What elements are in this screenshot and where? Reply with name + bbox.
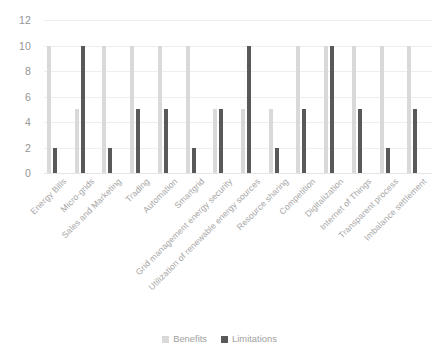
bar-benefits	[186, 46, 190, 174]
bar-limitations	[358, 109, 362, 173]
bar-limitations	[81, 46, 85, 174]
bar-benefits	[158, 46, 162, 174]
bar-group	[72, 20, 100, 173]
bar-group	[155, 20, 183, 173]
bar-benefits	[269, 109, 273, 173]
bar-benefits	[47, 46, 51, 174]
bar-group	[183, 20, 211, 173]
bar-group	[127, 20, 155, 173]
y-axis-tick-label: 4	[1, 117, 31, 127]
bar-limitations	[330, 46, 334, 174]
bar-limitations	[219, 109, 223, 173]
bar-group	[404, 20, 432, 173]
bar-chart: 024681012 Energy BillsMicro-gridsSales a…	[0, 0, 439, 357]
bar-benefits	[241, 109, 245, 173]
bar-benefits	[380, 46, 384, 174]
bar-limitations	[136, 109, 140, 173]
bar-benefits	[352, 46, 356, 174]
bar-group	[293, 20, 321, 173]
chart-legend: BenefitsLimitations	[0, 334, 439, 344]
bar-benefits	[213, 109, 217, 173]
bar-group	[266, 20, 294, 173]
y-axis-tick-label: 0	[1, 168, 31, 178]
y-axis-tick-label: 2	[1, 143, 31, 153]
bar-benefits	[324, 46, 328, 174]
bar-benefits	[102, 46, 106, 174]
y-axis-tick-label: 6	[1, 92, 31, 102]
bar-limitations	[275, 148, 279, 174]
bar-group	[321, 20, 349, 173]
bar-group	[99, 20, 127, 173]
bars-layer	[44, 20, 432, 173]
y-axis-tick-label: 10	[1, 41, 31, 51]
legend-swatch-icon	[162, 336, 169, 343]
bar-limitations	[53, 148, 57, 174]
y-axis-tick-label: 12	[1, 15, 31, 25]
bar-benefits	[407, 46, 411, 174]
legend-item[interactable]: Limitations	[221, 334, 277, 344]
bar-group	[377, 20, 405, 173]
bar-limitations	[413, 109, 417, 173]
bar-group	[349, 20, 377, 173]
bar-limitations	[247, 46, 251, 174]
bar-limitations	[386, 148, 390, 174]
legend-label: Limitations	[232, 334, 277, 344]
bar-limitations	[108, 148, 112, 174]
bar-group	[44, 20, 72, 173]
x-axis-labels: Energy BillsMicro-gridsSales and Marketi…	[44, 173, 432, 313]
bar-group	[210, 20, 238, 173]
legend-label: Benefits	[173, 334, 207, 344]
bar-benefits	[75, 109, 79, 173]
legend-item[interactable]: Benefits	[162, 334, 207, 344]
y-axis-tick-label: 8	[1, 66, 31, 76]
bar-group	[238, 20, 266, 173]
bar-limitations	[164, 109, 168, 173]
bar-limitations	[192, 148, 196, 174]
bar-limitations	[302, 109, 306, 173]
bar-benefits	[130, 46, 134, 174]
legend-swatch-icon	[221, 336, 228, 343]
bar-benefits	[296, 46, 300, 174]
